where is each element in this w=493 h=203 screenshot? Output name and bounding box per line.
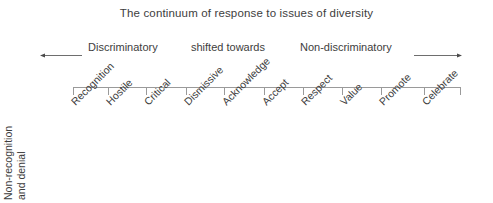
legend-label-shifted-towards: shifted towards (191, 39, 265, 55)
legend-label-discriminatory: Discriminatory (88, 39, 158, 55)
axis-category-label: Respect (299, 72, 334, 107)
axis-category-label: Critical (142, 77, 172, 107)
legend-label-non-discriminatory: Non-discriminatory (300, 39, 392, 55)
axis-category-label: Promote (377, 72, 413, 108)
figure-title: The continuum of response to issues of d… (0, 7, 493, 19)
axis-category-label: Accept (260, 77, 290, 107)
arrow-left-icon (40, 46, 82, 55)
axis-vertical-label: Non-recognition and denial (2, 88, 38, 200)
axis-vertical-label-line-2: and denial (15, 88, 28, 200)
axis-tick (460, 87, 461, 95)
axis-category-label: Value (338, 81, 364, 107)
axis-category-label: Hostile (104, 77, 134, 107)
continuum-direction-row: Discriminatory shifted towards Non-discr… (0, 39, 493, 55)
axis-vertical-label-line-1: Non-recognition (2, 88, 15, 200)
arrow-right-icon (414, 46, 462, 55)
axis-category-label: Dismissive (182, 64, 225, 107)
diversity-continuum-figure: The continuum of response to issues of d… (0, 0, 493, 203)
